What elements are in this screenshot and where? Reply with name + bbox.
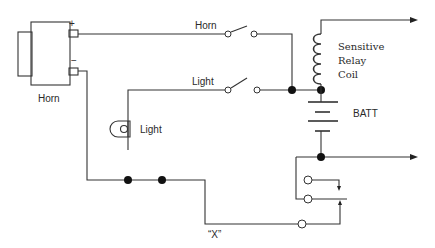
lamp bbox=[110, 121, 130, 137]
wire-lamp-to-light-switch bbox=[128, 90, 225, 150]
horn-switch-label: Horn bbox=[195, 20, 217, 31]
relay-label-line2: Relay bbox=[338, 55, 367, 66]
relay-label-line3: Coil bbox=[338, 69, 358, 80]
light-switch-label: Light bbox=[192, 76, 214, 87]
horn-label: Horn bbox=[38, 93, 60, 104]
circuit-diagram: + − Horn Horn Light Light “X” Sensitive … bbox=[0, 0, 435, 248]
junction-node bbox=[288, 86, 296, 94]
battery-icon bbox=[308, 90, 338, 157]
horn-minus-label: − bbox=[71, 55, 77, 66]
relay-contacts bbox=[296, 157, 347, 228]
junction-node bbox=[158, 176, 166, 184]
point-x-label: “X” bbox=[208, 229, 221, 240]
wire-coil-top-output bbox=[321, 20, 410, 34]
relay-label-line1: Sensitive bbox=[338, 41, 384, 52]
horn-switch bbox=[225, 26, 257, 37]
wire-horn-negative-to-x bbox=[78, 71, 298, 224]
lamp-label: Light bbox=[140, 124, 162, 135]
horn-plus-label: + bbox=[69, 18, 75, 29]
arrow-right-icon bbox=[410, 17, 418, 23]
battery-label: BATT bbox=[353, 108, 378, 119]
junction-node bbox=[317, 153, 325, 161]
relay-coil-icon bbox=[314, 34, 322, 84]
wire-horn-switch-to-node bbox=[257, 34, 292, 90]
junction-node bbox=[124, 176, 132, 184]
horn-component bbox=[18, 22, 78, 85]
arrow-right-icon bbox=[410, 154, 418, 160]
light-switch bbox=[225, 78, 260, 93]
